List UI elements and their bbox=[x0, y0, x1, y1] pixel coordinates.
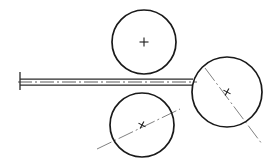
center-marks bbox=[137, 38, 233, 131]
horizontal-shaft bbox=[18, 72, 197, 90]
technical-drawing-canvas bbox=[0, 0, 278, 166]
top-roller-center-mark bbox=[140, 38, 149, 47]
roller-circles bbox=[110, 10, 262, 157]
roller-axis-centerlines bbox=[97, 68, 262, 149]
right-roller-axis-centerline bbox=[205, 68, 262, 144]
drawing-svg bbox=[0, 0, 278, 166]
bottom-roller-center-mark bbox=[137, 120, 148, 131]
